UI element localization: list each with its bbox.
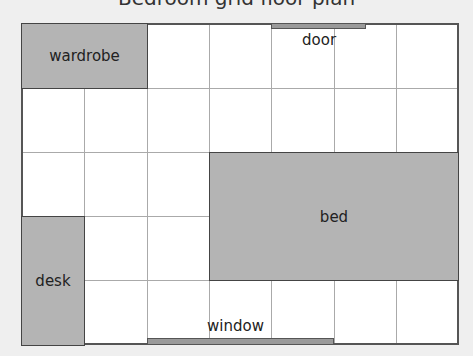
desk-label: desk <box>35 272 70 290</box>
diagram-caption: Bedroom grid floor plan <box>0 0 473 10</box>
bed-label: bed <box>320 208 348 226</box>
desk: desk <box>21 216 85 346</box>
door-label: door <box>302 31 336 49</box>
bed: bed <box>209 152 459 281</box>
window <box>147 338 334 345</box>
window-label: window <box>207 317 264 335</box>
wardrobe: wardrobe <box>21 23 148 89</box>
door <box>271 23 366 29</box>
wardrobe-label: wardrobe <box>49 47 120 65</box>
